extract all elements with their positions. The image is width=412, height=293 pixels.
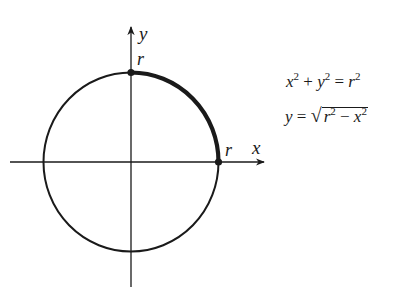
point-right-label: r bbox=[225, 140, 233, 160]
x-axis-label: x bbox=[251, 137, 261, 158]
eq2-minus: − bbox=[336, 107, 354, 126]
eq1-equals: = bbox=[330, 72, 348, 91]
point-top bbox=[127, 69, 134, 76]
circle-diagram: y x r r bbox=[0, 0, 412, 293]
eq1-x: x bbox=[286, 72, 294, 91]
point-right bbox=[215, 158, 222, 165]
y-axis-label: y bbox=[137, 23, 148, 44]
eq2-equals: = bbox=[293, 107, 311, 126]
equation-circle: x2 + y2 = r2 bbox=[286, 72, 360, 92]
eq2-y: y bbox=[285, 107, 293, 126]
point-top-label: r bbox=[137, 49, 145, 69]
eq1-y: y bbox=[317, 72, 325, 91]
eq2-exp-x: 2 bbox=[361, 105, 367, 117]
sqrt-icon: √ bbox=[311, 104, 322, 126]
radicand: r2 − x2 bbox=[322, 107, 368, 126]
highlighted-arc bbox=[131, 73, 219, 163]
eq1-r: r bbox=[348, 72, 355, 91]
eq1-exp-r: 2 bbox=[355, 70, 361, 82]
equation-upper-semicircle: y = √r2 − x2 bbox=[285, 104, 368, 127]
eq1-plus: + bbox=[299, 72, 317, 91]
